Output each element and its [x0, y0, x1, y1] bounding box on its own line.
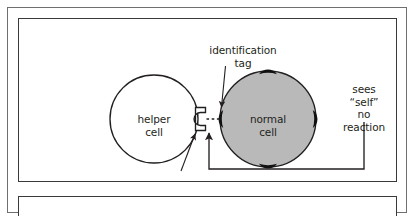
outcome-label-line2: “self”: [327, 96, 397, 109]
outcome-label-line4: reaction: [327, 121, 397, 134]
identification-tag-label: identification tag: [189, 44, 297, 69]
upper-illustration-panel: identification tag helper cell normal ce…: [18, 18, 397, 182]
normal-cell-label: normal cell: [237, 113, 299, 138]
normal-cell-label-line1: normal: [237, 113, 299, 126]
helper-cell-label-line2: cell: [123, 126, 185, 139]
helper-cell-label: helper cell: [123, 113, 185, 138]
lower-illustration-panel: [18, 196, 397, 216]
outcome-label-line3: no: [327, 108, 397, 121]
outcome-label-line1: sees: [327, 83, 397, 96]
identification-tag-label-line2: tag: [189, 57, 297, 70]
normal-cell-label-line2: cell: [237, 126, 299, 139]
receptor-shape: [194, 108, 205, 131]
figure-root: identification tag helper cell normal ce…: [0, 0, 415, 216]
identification-tag-label-line1: identification: [189, 44, 297, 57]
helper-cell-label-line1: helper: [123, 113, 185, 126]
outcome-label: sees “self” no reaction: [327, 83, 397, 133]
receptor-label: receptor: [147, 181, 225, 182]
